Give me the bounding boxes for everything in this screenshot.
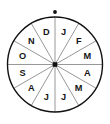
spinner-wheel-svg[interactable]: Spinner divided into twelve equal sector…: [0, 0, 110, 124]
center-hub: [53, 62, 58, 67]
spinner-figure: Spinner divided into twelve equal sector…: [0, 0, 110, 124]
sector-label-october: O: [19, 51, 26, 61]
sector-label-january: J: [61, 27, 66, 37]
sector-label-june: J: [61, 92, 66, 102]
pointer-dot-icon: [53, 10, 57, 14]
sector-label-february: F: [76, 36, 82, 46]
sector-label-july: J: [44, 92, 49, 102]
sector-label-november: N: [28, 36, 35, 46]
sector-label-april: A: [84, 68, 91, 78]
sector-label-september: S: [20, 68, 26, 78]
sector-label-march: M: [84, 51, 92, 61]
sector-label-august: A: [28, 83, 35, 93]
sector-label-may: M: [75, 83, 83, 93]
sector-label-december: D: [43, 27, 50, 37]
